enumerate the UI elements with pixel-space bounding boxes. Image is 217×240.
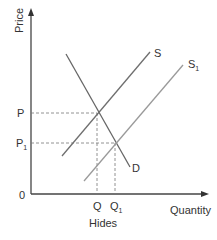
demand-curve xyxy=(66,54,130,167)
quantity-q1-label: Q1 xyxy=(110,200,123,214)
supply-curve xyxy=(62,52,150,156)
y-axis-label: Price xyxy=(13,8,25,33)
price-p1-label: P1 xyxy=(16,137,27,151)
x-sublabel: Hides xyxy=(89,217,118,229)
x-axis-label: Quantity xyxy=(170,204,211,216)
supply-shifted-label: S1 xyxy=(188,58,199,72)
demand-label: D xyxy=(132,162,140,174)
quantity-q-label: Q xyxy=(93,200,102,212)
price-p-label: P xyxy=(17,107,24,119)
x-axis-arrow-icon xyxy=(201,191,209,197)
origin-label: 0 xyxy=(19,189,25,201)
supply-label: S xyxy=(154,47,161,59)
supply-demand-diagram: Price Quantity Hides 0 P P1 Q Q1 D S S1 xyxy=(0,0,217,240)
y-axis-arrow-icon xyxy=(28,8,34,16)
